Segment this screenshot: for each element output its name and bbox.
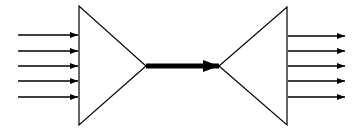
multiplexer-triangle [79,6,146,125]
diagram-svg [0,0,363,134]
mux-demux-diagram [0,0,363,134]
output-arrows-group [288,36,345,97]
demultiplexer-triangle [219,7,287,125]
input-arrows-group [18,35,78,97]
